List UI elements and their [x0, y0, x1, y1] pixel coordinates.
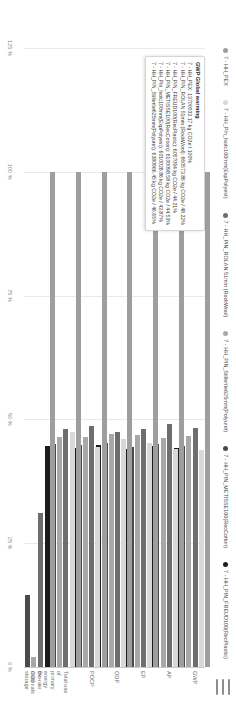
legend-item-label: 7 - HH_Pln_Isolc100mm(ExpPolyest)	[222, 108, 230, 199]
legend-item[interactable]: 7 - HH_Pln_Isolc100mm(ExpPolyest)	[222, 100, 230, 199]
tooltip-row: 7 - HH_PEX: 13700033.17 kg CO2e / 100%	[186, 62, 193, 225]
axis-tick-label: 125 %	[7, 40, 13, 56]
chart-legend: 7 - HH_PEX7 - HH_Pln_Isolc100mm(ExpPolye…	[222, 48, 230, 667]
bar[interactable]	[167, 424, 172, 667]
chart-canvas: 7 - HH_PEX7 - HH_Pln_Isolc100mm(ExpPolye…	[0, 0, 236, 701]
axis-tick-label: 0 %	[7, 662, 13, 672]
legend-item-label: 7 - HH_PIN_METISSE100(RecCotton)	[222, 454, 230, 548]
bar[interactable]	[50, 172, 55, 667]
bar[interactable]	[193, 428, 198, 667]
bar[interactable]	[38, 513, 43, 667]
legend-item[interactable]: 7 - HH_PEX	[222, 48, 230, 86]
category-label: ODP	[114, 671, 121, 683]
tooltip-row: 7 - HH_PIN_ROLAN 51mm (RockWool): 660573…	[178, 62, 185, 225]
bar[interactable]	[173, 449, 178, 667]
bar[interactable]	[115, 432, 120, 667]
category-label: Bio-CO2 storage	[23, 671, 43, 690]
legend-swatch-icon	[224, 331, 229, 336]
bar[interactable]	[186, 436, 191, 667]
bar[interactable]	[205, 172, 210, 667]
bar[interactable]	[76, 172, 81, 667]
tooltip-row: 7 - HH_Pln_Isolc100mm(ExpPolyest): 60100…	[157, 62, 164, 225]
bar[interactable]	[109, 434, 114, 667]
legend-item-label: 7 - HH_PIN_ROLAN 51mm (RockWool)	[222, 221, 230, 318]
hamburger-bar	[222, 679, 224, 695]
legend-swatch-icon	[224, 48, 229, 53]
category-label: AP	[166, 671, 173, 678]
bar[interactable]	[102, 172, 107, 667]
axis-tick-label: 50 %	[7, 413, 13, 426]
tooltip-row: 7 - HH_PIN_METISSE100(RecCotton): 610009…	[164, 62, 171, 225]
axis-tick-label: 100 %	[7, 164, 13, 180]
tooltip-row: 7 - HH_PIN_Stillerite625mm(Polyuret): 63…	[150, 62, 157, 225]
bar[interactable]	[31, 657, 36, 667]
bar[interactable]	[95, 447, 100, 667]
hamburger-bar	[228, 679, 230, 695]
legend-swatch-icon	[224, 100, 229, 105]
bar[interactable]	[121, 439, 126, 667]
bar-group: Bio-CO2 storage	[19, 48, 55, 667]
bar[interactable]	[199, 450, 204, 667]
hamburger-bar	[216, 679, 218, 695]
tooltip-title: GWP Global warming	[194, 62, 201, 225]
bar[interactable]	[161, 438, 166, 667]
legend-swatch-icon	[224, 562, 229, 567]
legend-swatch-icon	[224, 213, 229, 218]
legend-item[interactable]: 7 - HH_PIN_METISSE100(RecCotton)	[222, 446, 230, 548]
axis-tick-label: 75 %	[7, 289, 13, 302]
bar[interactable]	[89, 426, 94, 667]
bar[interactable]	[57, 437, 62, 667]
axis-tick-label: 25 %	[7, 537, 13, 550]
category-label: GWP	[192, 671, 199, 684]
bar[interactable]	[179, 172, 184, 667]
category-label: EP	[140, 671, 147, 678]
bar[interactable]	[63, 429, 68, 667]
gridline	[24, 667, 205, 668]
tooltip-rows: 7 - HH_PEX: 13700033.17 kg CO2e / 100%7 …	[150, 62, 193, 225]
legend-item[interactable]: 7 - HH_PIN_ROLAN 51mm (RockWool)	[222, 213, 230, 318]
bar[interactable]	[70, 432, 75, 667]
bar[interactable]	[153, 172, 158, 667]
bar[interactable]	[83, 437, 88, 667]
legend-item-label: 7 - HH_PEX	[222, 56, 230, 86]
legend-item-label: 7 - HH_PIN_FREUD100(RecPlastic)	[222, 570, 230, 659]
legend-swatch-icon	[224, 446, 229, 451]
chart-tooltip: GWP Global warming 7 - HH_PEX: 13700033.…	[145, 56, 205, 231]
legend-item-label: 7 - HH_PIN_Stillerite625mm(Polyuret)	[222, 339, 230, 432]
rotated-chart-stage: 7 - HH_PEX7 - HH_Pln_Isolc100mm(ExpPolye…	[0, 0, 236, 701]
bar[interactable]	[25, 595, 30, 667]
bar[interactable]	[135, 435, 140, 667]
bar[interactable]	[141, 429, 146, 667]
bar[interactable]	[128, 172, 133, 667]
bar[interactable]	[147, 443, 152, 667]
tooltip-row: 7 - HH_PIN_FREUD100(RecPlastic): 6057094…	[171, 62, 178, 225]
legend-item[interactable]: 7 - HH_PIN_Stillerite625mm(Polyuret)	[222, 331, 230, 432]
category-label: POCP	[88, 671, 95, 687]
hamburger-icon[interactable]	[216, 679, 230, 695]
legend-item[interactable]: 7 - HH_PIN_FREUD100(RecPlastic)	[222, 562, 230, 659]
